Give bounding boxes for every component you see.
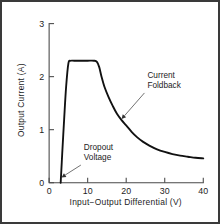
x-tick-label-20: 20	[121, 186, 131, 196]
chart-plot-area: 0102030400123 CurrentFoldbackDropoutVolt…	[2, 2, 218, 222]
annotation-arrowhead	[61, 173, 66, 177]
annotation-leader	[124, 93, 144, 116]
x-axis-title: Input−Output Differential (V)	[70, 197, 182, 207]
annotation-current-foldback: CurrentFoldback	[122, 71, 182, 119]
annotation-label: Foldback	[147, 81, 181, 90]
annotation-label: Dropout	[84, 143, 114, 152]
x-tick-label-40: 40	[198, 186, 208, 196]
x-tick-label-30: 30	[160, 186, 170, 196]
series-line	[61, 61, 204, 183]
annotation-dropout-voltage: DropoutVoltage	[61, 143, 113, 178]
x-tick-label-0: 0	[47, 186, 52, 196]
chart-axes	[49, 24, 203, 183]
y-axis-title: Output Current (A)	[16, 63, 26, 137]
annotation-label: Voltage	[84, 153, 112, 162]
axis-lines	[49, 24, 203, 183]
current-foldback-chart: 0102030400123 CurrentFoldbackDropoutVolt…	[2, 2, 218, 222]
y-tick-label-2: 2	[39, 72, 44, 82]
x-tick-label-10: 10	[83, 186, 93, 196]
chart-series	[61, 61, 204, 183]
y-tick-label-0: 0	[39, 178, 44, 188]
y-tick-label-3: 3	[39, 19, 44, 29]
chart-annotations: CurrentFoldbackDropoutVoltage	[61, 71, 181, 178]
figure-frame: 0102030400123 CurrentFoldbackDropoutVolt…	[0, 0, 220, 224]
annotation-label: Current	[147, 71, 175, 80]
annotation-leader	[65, 165, 81, 175]
y-tick-label-1: 1	[39, 125, 44, 135]
